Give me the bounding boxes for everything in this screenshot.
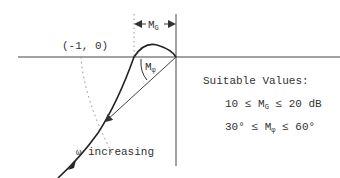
- omega-increasing-label: ω increasing: [76, 146, 154, 158]
- gain-margin-range: 10 ≤ MG ≤ 20 dB: [225, 98, 322, 111]
- curve-direction-arrow: [68, 160, 76, 170]
- suitable-values-heading: Suitable Values:: [203, 75, 309, 87]
- phase-margin-label: Mφ: [145, 61, 157, 74]
- gain-margin-label: MG: [148, 19, 159, 32]
- nyquist-diagram: MG (-1, 0) Mφ ω increasing Suitable Valu…: [0, 0, 340, 178]
- critical-point-label: (-1, 0): [62, 40, 108, 52]
- phase-margin-range: 30° ≤ Mφ ≤ 60°: [225, 121, 315, 134]
- unit-circle-arc: [81, 57, 113, 155]
